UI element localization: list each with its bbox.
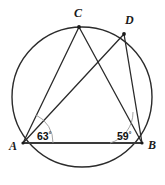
angle-value-b: 59 — [117, 130, 129, 142]
angle-value-a: 63 — [37, 130, 49, 142]
geometry-figure: A B C D 63° 59° — [0, 0, 165, 185]
vertex-label-a: A — [8, 139, 17, 153]
vertex-dot-d — [122, 32, 126, 36]
angle-label-b: 59° — [117, 130, 132, 142]
circumcircle — [12, 27, 152, 167]
vertex-label-b: B — [147, 138, 156, 152]
vertex-label-d: D — [124, 13, 134, 27]
vertex-label-c: C — [74, 6, 83, 20]
angle-label-a: 63° — [37, 130, 52, 142]
segment-ad — [23, 34, 124, 143]
vertex-dot-c — [77, 25, 81, 29]
geometry-canvas: A B C D 63° 59° — [0, 0, 165, 185]
vertex-dot-b — [140, 141, 143, 144]
degree-symbol-a: ° — [49, 131, 52, 138]
vertex-dot-a — [21, 141, 24, 144]
segment-ac — [23, 27, 79, 143]
degree-symbol-b: ° — [129, 131, 132, 138]
